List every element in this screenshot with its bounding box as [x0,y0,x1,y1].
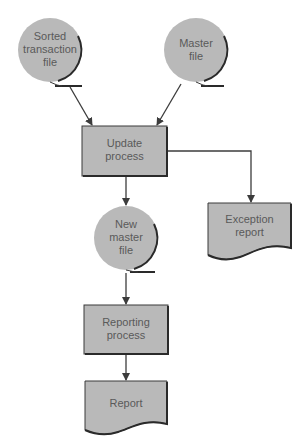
flowchart-canvas [0,0,307,439]
report-node [85,381,167,434]
edge-update-to-exception [168,151,251,202]
edge-master-to-update [157,84,181,125]
exception-report-node [208,203,291,259]
reporting-process-node [84,305,168,354]
edge-sorted-to-update [70,87,92,125]
new-master-file-node [94,206,158,272]
update-process-node [82,126,167,176]
sorted-transaction-file-node [18,18,82,86]
master-file-node [164,18,228,86]
